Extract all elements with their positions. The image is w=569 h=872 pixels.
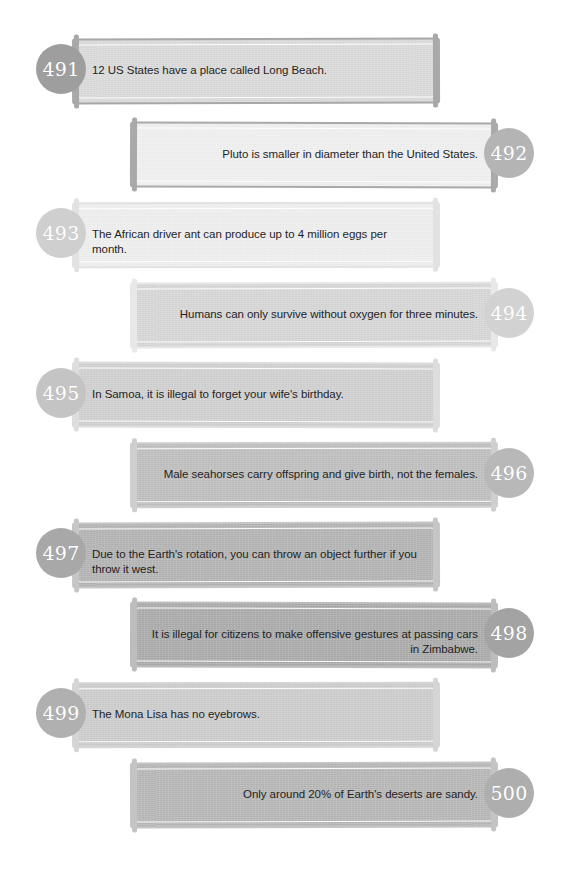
bar-right-end-cap (433, 198, 438, 272)
fact-text: The African driver ant can produce up to… (92, 227, 422, 257)
fact-number-badge: 493 (36, 208, 86, 258)
fact-number-badge: 496 (484, 448, 534, 498)
fact-text: Pluto is smaller in diameter than the Un… (148, 147, 478, 162)
fact-number-badge: 498 (484, 608, 534, 658)
bar-left-end-cap (132, 597, 137, 671)
fact-list: 49112 US States have a place called Long… (0, 0, 569, 872)
bar-right-end-cap (433, 358, 438, 432)
fact-number-badge: 491 (36, 44, 86, 94)
fact-text: Male seahorses carry offspring and give … (148, 467, 478, 482)
bar-left-end-cap (132, 117, 137, 191)
bar-right-end-cap (433, 678, 438, 752)
fact-number-badge: 499 (36, 688, 86, 738)
bar-left-end-cap (132, 279, 137, 353)
fact-number-badge: 497 (36, 528, 86, 578)
fact-text: Only around 20% of Earth's deserts are s… (148, 787, 478, 802)
fact-number-badge: 495 (36, 368, 86, 418)
bar-right-end-cap (433, 33, 438, 107)
fact-number-badge: 494 (484, 288, 534, 338)
fact-text: Due to the Earth's rotation, you can thr… (92, 547, 422, 577)
fact-text: It is illegal for citizens to make offen… (148, 627, 478, 657)
fact-text: 12 US States have a place called Long Be… (92, 63, 422, 78)
fact-text: In Samoa, it is illegal to forget your w… (92, 387, 422, 402)
fact-number-badge: 500 (484, 768, 534, 818)
bar-left-end-cap (132, 759, 137, 833)
bar-left-end-cap (132, 438, 137, 512)
fact-text: The Mona Lisa has no eyebrows. (92, 707, 422, 722)
bar-right-end-cap (433, 517, 438, 591)
fact-number-badge: 492 (484, 128, 534, 178)
fact-text: Humans can only survive without oxygen f… (148, 307, 478, 322)
